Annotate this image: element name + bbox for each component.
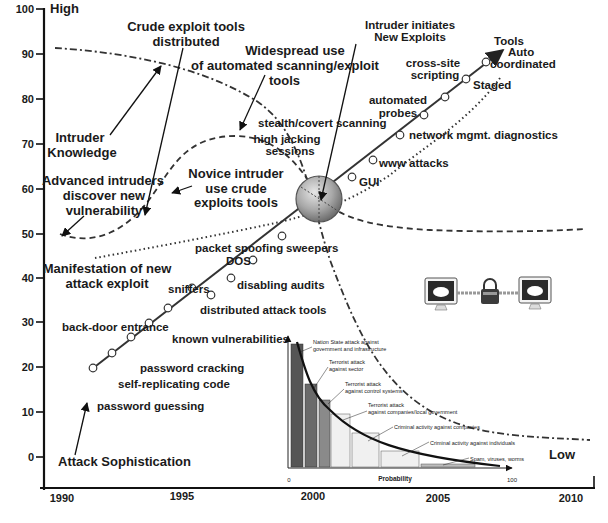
label-sniffers: sniffers <box>168 283 210 295</box>
inset-bar-7 <box>421 464 475 467</box>
monitor-icon-left <box>425 278 457 310</box>
label-scripting: scripting <box>411 69 460 81</box>
label-dos: DOS <box>226 255 251 267</box>
inset-label-5: Criminal activity against companies <box>394 424 480 430</box>
inset-bar-1 <box>291 344 303 467</box>
y-tick-0: 0 <box>28 451 34 463</box>
label-sweepers: sweepers <box>286 242 338 254</box>
inset-x-label: Probability <box>378 475 412 483</box>
inset-label-3: Terrorist attack <box>345 381 381 387</box>
y-tick-80: 80 <box>22 93 34 105</box>
x-tick-2010: 2010 <box>559 492 583 504</box>
annotation-intruder-initiates-2: New Exploits <box>374 31 446 43</box>
annotation-advanced-3: vulnerability <box>66 203 143 218</box>
y-tick-60: 60 <box>22 183 34 195</box>
annotation-crude-exploit-2: distributed <box>152 34 219 49</box>
inset-bar-2 <box>305 384 317 467</box>
annotation-intruder-initiates: Intruder initiates <box>365 19 455 31</box>
label-automated: automated <box>369 94 427 106</box>
padlock-icon <box>481 279 499 304</box>
annotation-intruder-knowledge: Intruder <box>55 130 104 145</box>
annotation-intruder-knowledge-2: Knowledge <box>47 145 116 160</box>
secure-network-icon <box>425 277 551 310</box>
label-www-attacks: www attacks <box>378 157 449 169</box>
inset-label-3b: against control systems <box>345 388 403 394</box>
inset-bar-4 <box>331 414 350 467</box>
annotation-widespread-3: tools <box>269 73 300 88</box>
inset-label-7: Spam, viruses, worms <box>470 456 524 462</box>
y-low-label: Low <box>549 447 576 462</box>
annotation-novice-3: exploits tools <box>194 195 278 210</box>
annotation-manifestation-2: attack exploit <box>65 276 149 291</box>
annotation-attack-sophistication: Attack Sophistication <box>58 454 191 469</box>
label-known-vulnerabilities: known vulnerabilities <box>172 333 289 345</box>
inset-bar-3 <box>319 400 330 467</box>
y-tick-90: 90 <box>22 48 34 60</box>
label-self-replicating: self-replicating code <box>118 378 230 390</box>
annotation-advanced-2: discover new <box>63 188 146 203</box>
inset-label-2b: against sector <box>329 366 363 372</box>
y-tick-20: 20 <box>22 361 34 373</box>
label-gui: GUI <box>359 176 379 188</box>
label-stealth: stealth/covert scanning <box>258 117 386 129</box>
y-tick-70: 70 <box>22 138 34 150</box>
label-staged: Staged <box>473 79 511 91</box>
label-high-jacking: high jacking <box>253 133 320 145</box>
inset-bar-5 <box>352 433 379 467</box>
label-distributed-attack-tools: distributed attack tools <box>200 304 327 316</box>
label-cross-site: cross-site <box>406 57 460 69</box>
y-axis: 100 90 80 70 60 50 40 30 20 10 0 High <box>16 1 79 490</box>
label-network-mgmt: network mgmt. diagnostics <box>409 129 558 141</box>
inset-x-100: 100 <box>507 477 518 483</box>
inset-bar-6 <box>381 451 419 467</box>
x-tick-2000: 2000 <box>301 490 325 502</box>
inset-risk-chart: Consequence Probability 0 100 Nation Sta… <box>287 336 524 483</box>
inset-label-6: Criminal activity against individuals <box>430 440 515 446</box>
monitor-icon-right <box>519 277 551 309</box>
point-password-guessing <box>89 364 97 372</box>
y-tick-40: 40 <box>22 272 34 284</box>
y-tick-50: 50 <box>22 228 34 240</box>
annotation-advanced-intruders: Advanced intruders <box>42 173 164 188</box>
inset-label-4: Terrorist attack <box>368 402 404 408</box>
label-sessions: sessions <box>265 145 314 157</box>
label-back-door: back-door entrance <box>62 321 169 333</box>
convergence-sphere <box>296 176 342 222</box>
label-password-cracking: password cracking <box>140 362 244 374</box>
y-high-label: High <box>50 1 79 16</box>
x-tick-1990: 1990 <box>50 492 74 504</box>
annotation-novice-2: use crude <box>205 181 266 196</box>
inset-x-0: 0 <box>287 477 291 483</box>
inset-label-2: Terrorist attack <box>329 359 365 365</box>
x-tick-2005: 2005 <box>426 492 450 504</box>
annotation-novice-intruder: Novice intruder <box>188 166 283 181</box>
annotation-widespread-2: of automated scanning/exploit <box>191 58 379 73</box>
label-coordinated: coordinated <box>490 58 556 70</box>
label-disabling-audits: disabling audits <box>237 279 325 291</box>
y-tick-10: 10 <box>22 406 34 418</box>
annotation-widespread: Widespread use <box>245 43 345 58</box>
attack-sophistication-chart: 100 90 80 70 60 50 40 30 20 10 0 High 19… <box>0 0 608 523</box>
annotation-manifestation: Manifestation of new <box>43 261 172 276</box>
label-packet-spoofing: packet spoofing <box>195 242 283 254</box>
inset-label-1: Nation State attack against <box>313 339 379 345</box>
y-tick-100: 100 <box>16 3 34 15</box>
label-auto: Auto <box>508 46 534 58</box>
x-tick-1995: 1995 <box>170 490 194 502</box>
inset-label-4b: against companies/local government <box>368 409 458 415</box>
y-tick-30: 30 <box>22 316 34 328</box>
annotation-crude-exploit: Crude exploit tools <box>127 19 245 34</box>
label-password-guessing: password guessing <box>97 400 204 412</box>
inset-label-1b: government and infrastructure <box>313 346 386 352</box>
